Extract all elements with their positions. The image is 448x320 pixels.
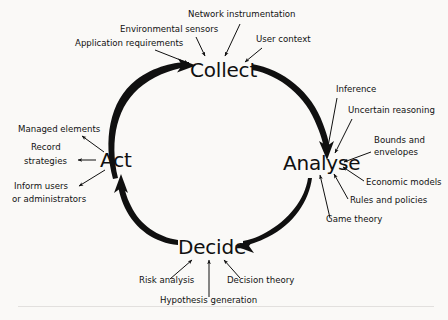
decide-input-labels: Risk analysis Hypothesis generation Deci… [139, 275, 294, 305]
leader-game-theory [320, 175, 330, 218]
label-strategies: strategies [24, 156, 67, 166]
label-managed-elements: Managed elements [18, 124, 101, 134]
leader-managed-elements [82, 136, 104, 152]
label-network-instrumentation: Network instrumentation [188, 9, 295, 19]
node-collect[interactable]: Collect [190, 58, 257, 82]
label-uncertain-reasoning: Uncertain reasoning [348, 105, 435, 115]
diagram-canvas: Collect Analyse Decide Act [0, 0, 448, 320]
edge-analyse-to-decide [235, 178, 312, 253]
leader-rules-and-policies [334, 174, 348, 199]
edge-decide-to-act [114, 174, 178, 245]
edge-collect-to-analyse [252, 64, 334, 160]
label-application-requirements: Application requirements [75, 38, 184, 48]
label-envelopes: envelopes [374, 147, 418, 157]
leader-inform-users [79, 170, 105, 186]
label-risk-analysis: Risk analysis [139, 275, 195, 285]
label-environmental-sensors: Environmental sensors [120, 24, 219, 34]
label-inference: Inference [336, 84, 376, 94]
label-decision-theory: Decision theory [227, 275, 294, 285]
label-bounds-and: Bounds and [374, 135, 425, 145]
node-act[interactable]: Act [100, 148, 132, 172]
label-hypothesis-generation: Hypothesis generation [160, 295, 257, 305]
collect-input-labels: Application requirements Environmental s… [75, 9, 311, 48]
cycle-diagram-svg: Collect Analyse Decide Act [0, 0, 448, 320]
label-inform-users: Inform users [14, 181, 68, 191]
label-rules-and-policies: Rules and policies [350, 195, 428, 205]
bottom-divider [18, 306, 434, 307]
leader-network-instrumentation [225, 24, 240, 56]
leader-uncertain-reasoning [335, 119, 352, 153]
leader-application-requirements [155, 50, 188, 63]
leader-environmental-sensors [196, 37, 205, 56]
label-game-theory: Game theory [326, 214, 382, 224]
label-or-administrators: or administrators [12, 194, 87, 204]
act-output-labels: Managed elements Record strategies Infor… [12, 124, 101, 204]
node-decide[interactable]: Decide [178, 235, 246, 259]
label-economic-models: Economic models [366, 177, 442, 187]
label-user-context: User context [256, 34, 311, 44]
cycle-node-labels: Collect Analyse Decide Act [100, 58, 360, 259]
label-record: Record [31, 142, 61, 152]
